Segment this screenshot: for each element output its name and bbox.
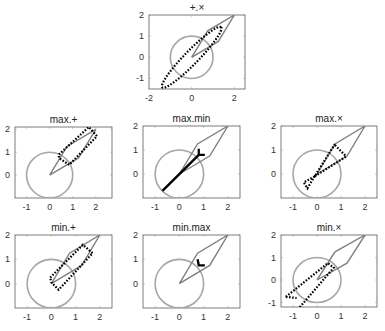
y-tick-label: 1 (133, 254, 138, 264)
result-shape (304, 176, 315, 188)
kite-shape (317, 235, 365, 280)
kite-shape (192, 15, 235, 57)
x-tick-label: 2 (225, 312, 230, 322)
x-tick-label: 0 (189, 93, 194, 103)
x-tick-label: 2 (97, 312, 102, 322)
result-shape (286, 297, 297, 298)
x-tick-label: -1 (289, 311, 297, 321)
x-tick-label: -1 (151, 312, 159, 322)
figure: +.×-202-1012max.+-1012012max.min-1012012… (0, 0, 385, 331)
y-tick-label: 1 (139, 31, 144, 41)
x-tick-label: 2 (362, 202, 367, 212)
y-tick-label: 2 (271, 121, 276, 131)
y-tick-label: 0 (133, 279, 138, 289)
chart-canvas: +.×-202-1012max.+-1012012max.min-1012012… (0, 0, 385, 331)
subplot-title: min.+ (51, 222, 76, 233)
y-tick-label: 1 (5, 147, 10, 157)
x-tick-label: 2 (93, 202, 98, 212)
x-tick-label: -1 (23, 202, 31, 212)
y-tick-label: 1 (271, 145, 276, 155)
kite-shape (51, 235, 100, 284)
subplot-title: min.max (173, 222, 211, 233)
y-tick-label: 0 (133, 169, 138, 179)
y-tick-label: 1 (271, 253, 276, 263)
x-tick-label: 1 (201, 312, 206, 322)
y-tick-label: 2 (271, 230, 276, 240)
subplot-title: max.+ (50, 114, 78, 125)
kite-shape (179, 235, 228, 284)
subplot-title: +.× (190, 2, 205, 13)
x-tick-label: 1 (338, 311, 343, 321)
x-tick-label: 1 (73, 312, 78, 322)
x-tick-label: 0 (47, 202, 52, 212)
y-tick-label: 2 (139, 10, 144, 20)
y-tick-label: 0 (5, 279, 10, 289)
subplot-title: min.× (317, 222, 342, 233)
subplot-2: max.min-1012012 (133, 113, 240, 212)
subplot-3: max.×-1012012 (271, 113, 377, 212)
y-tick-label: 2 (133, 230, 138, 240)
subplot-6: min.×-1012-1012 (268, 222, 377, 321)
subplot-5: min.max-1012012 (133, 222, 240, 322)
y-tick-label: 0 (271, 169, 276, 179)
y-tick-label: 1 (133, 145, 138, 155)
x-tick-label: -1 (23, 312, 31, 322)
x-tick-label: 1 (338, 202, 343, 212)
result-shape (162, 155, 198, 191)
x-tick-label: 0 (49, 312, 54, 322)
y-tick-label: 1 (5, 254, 10, 264)
x-tick-label: 0 (314, 311, 319, 321)
x-tick-label: 1 (70, 202, 75, 212)
kite-shape (50, 129, 96, 175)
y-tick-label: 2 (5, 230, 10, 240)
y-tick-label: 2 (5, 124, 10, 134)
result-shape (335, 145, 346, 156)
subplot-4: min.+-1012012 (5, 222, 112, 322)
y-tick-label: 0 (5, 170, 10, 180)
x-tick-label: 2 (232, 93, 237, 103)
x-tick-label: 2 (225, 202, 230, 212)
x-tick-label: -2 (145, 93, 153, 103)
y-tick-label: 0 (271, 275, 276, 285)
y-tick-label: -1 (268, 298, 276, 308)
subplot-title: max.min (173, 113, 211, 124)
x-tick-label: 0 (314, 202, 319, 212)
subplot-title: max.× (315, 113, 343, 124)
x-tick-label: -1 (289, 202, 297, 212)
x-tick-label: 1 (201, 202, 206, 212)
x-tick-label: -1 (151, 202, 159, 212)
subplot-1: max.+-1012012 (5, 114, 112, 212)
x-tick-label: 2 (362, 311, 367, 321)
y-tick-label: -1 (136, 73, 144, 83)
x-tick-label: 0 (177, 312, 182, 322)
subplot-0: +.×-202-1012 (136, 2, 245, 103)
y-tick-label: 2 (133, 121, 138, 131)
result-shape (315, 144, 347, 176)
x-tick-label: 0 (177, 202, 182, 212)
y-tick-label: 0 (139, 52, 144, 62)
result-shape (198, 259, 205, 265)
